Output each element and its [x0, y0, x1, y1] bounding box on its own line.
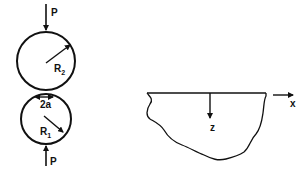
- contact-width-label: 2a: [40, 99, 52, 110]
- upper-radius-label: R2: [54, 63, 65, 76]
- x-axis-label: x: [290, 98, 296, 109]
- half-space-figure: z x: [147, 93, 296, 160]
- upper-sphere: [17, 32, 75, 90]
- sphere-contact-figure: P R2 2a R1 P: [17, 4, 75, 167]
- half-space-boundary: [147, 93, 266, 160]
- contact-diagram: P R2 2a R1 P z x: [0, 0, 308, 171]
- lower-radius-label: R1: [40, 126, 51, 139]
- z-axis-label: z: [210, 122, 215, 133]
- bottom-load-label: P: [50, 156, 57, 167]
- upper-radius-arrow: [46, 45, 70, 63]
- top-load-label: P: [51, 7, 58, 18]
